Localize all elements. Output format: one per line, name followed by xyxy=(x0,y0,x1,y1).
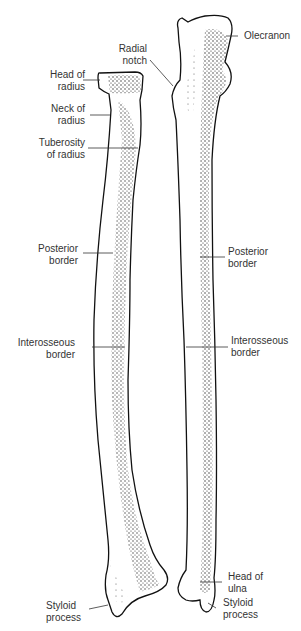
label-posterior-border-radius: Posterior border xyxy=(20,243,78,267)
label-tuberosity-of-radius: Tuberosity of radius xyxy=(20,137,85,161)
label-posterior-border-ulna: Posterior border xyxy=(228,246,268,270)
label-olecranon: Olecranon xyxy=(244,30,290,42)
bones-illustration xyxy=(0,0,301,631)
label-radial-notch: Radial notch xyxy=(113,43,147,67)
label-styloid-process-ulna: Styloid process xyxy=(223,597,258,621)
ulna-bone xyxy=(172,15,232,612)
radius-bone xyxy=(94,72,168,617)
label-head-of-radius: Head of radius xyxy=(30,69,85,93)
label-interosseous-border-ulna: Interosseous border xyxy=(231,335,288,359)
label-interosseous-border-radius: Interosseous border xyxy=(5,337,75,361)
label-neck-of-radius: Neck of radius xyxy=(30,103,85,127)
label-head-of-ulna: Head of ulna xyxy=(228,571,263,595)
label-styloid-process-radius: Styloid process xyxy=(46,600,81,624)
